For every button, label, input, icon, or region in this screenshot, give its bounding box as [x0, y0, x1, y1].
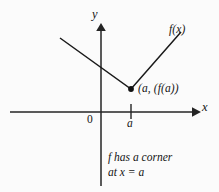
figure-caption: f has a corner at x = a — [108, 150, 172, 179]
y-axis — [96, 23, 106, 186]
math-figure-corner-function: y x f(x) (a, (f(a)) 0 a f has a corner a… — [0, 0, 219, 192]
x-axis-arrowhead-icon — [192, 107, 201, 117]
y-axis-arrowhead-icon — [96, 23, 106, 31]
x-axis — [10, 107, 201, 117]
y-axis-label: y — [92, 8, 98, 22]
corner-point-label: (a, (f(a)) — [138, 82, 179, 94]
corner-point-marker — [128, 86, 134, 92]
origin-label: 0 — [87, 113, 93, 125]
caption-line-1: f has a corner — [108, 150, 172, 165]
caption-line-2: at x = a — [108, 165, 172, 180]
x-tick-label-a: a — [127, 117, 133, 129]
function-label-fx: f(x) — [169, 23, 185, 35]
curve-polyline — [60, 32, 181, 89]
x-axis-label: x — [202, 101, 208, 115]
